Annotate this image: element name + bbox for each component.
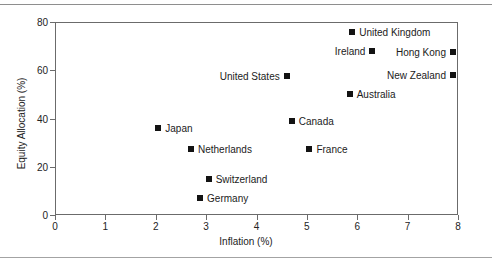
data-point-marker <box>349 29 355 35</box>
data-point-marker <box>289 118 295 124</box>
x-tick <box>156 215 157 220</box>
x-tick-label: 1 <box>103 221 109 232</box>
y-tick <box>50 215 55 216</box>
x-tick <box>257 215 258 220</box>
data-point-label: Japan <box>165 123 192 134</box>
x-tick-label: 0 <box>52 221 58 232</box>
x-tick <box>55 215 56 220</box>
data-point-label: Australia <box>357 89 396 100</box>
data-point-label: New Zealand <box>387 70 446 81</box>
data-point-label: Netherlands <box>198 143 252 154</box>
data-point-label: Canada <box>299 115 334 126</box>
y-tick-label: 80 <box>28 17 48 28</box>
scatter-chart-figure: 012345678 020406080 United KingdomIrelan… <box>0 0 492 271</box>
data-point-label: Ireland <box>335 45 366 56</box>
data-point-label: Switzerland <box>216 173 268 184</box>
x-tick-label: 6 <box>354 221 360 232</box>
x-tick <box>408 215 409 220</box>
data-point-label: Germany <box>207 193 248 204</box>
y-tick <box>50 70 55 71</box>
data-point-marker <box>450 72 456 78</box>
x-axis-title: Inflation (%) <box>0 236 492 247</box>
data-point-marker <box>197 195 203 201</box>
data-point-label: United Kingdom <box>359 26 430 37</box>
x-tick-label: 8 <box>455 221 461 232</box>
data-point-label: Hong Kong <box>396 47 446 58</box>
x-tick <box>307 215 308 220</box>
x-tick <box>105 215 106 220</box>
x-tick-label: 2 <box>153 221 159 232</box>
y-tick <box>50 119 55 120</box>
x-tick <box>206 215 207 220</box>
data-point-marker <box>188 146 194 152</box>
y-tick <box>50 167 55 168</box>
data-point-marker <box>206 176 212 182</box>
y-tick-label: 60 <box>28 65 48 76</box>
x-tick <box>458 215 459 220</box>
data-point-marker <box>306 146 312 152</box>
x-tick-label: 3 <box>203 221 209 232</box>
x-tick-label: 7 <box>405 221 411 232</box>
data-point-marker <box>369 48 375 54</box>
data-point-marker <box>347 91 353 97</box>
data-point-label: United States <box>220 71 280 82</box>
data-point-marker <box>450 49 456 55</box>
y-tick-label: 20 <box>28 161 48 172</box>
y-tick-label: 0 <box>28 210 48 221</box>
y-tick <box>50 22 55 23</box>
x-tick <box>357 215 358 220</box>
x-tick-label: 4 <box>254 221 260 232</box>
data-point-label: France <box>316 143 347 154</box>
y-axis-title: Equity Allocation (%) <box>16 29 27 219</box>
y-tick-label: 40 <box>28 113 48 124</box>
data-point-marker <box>155 125 161 131</box>
data-point-marker <box>284 73 290 79</box>
x-tick-label: 5 <box>304 221 310 232</box>
